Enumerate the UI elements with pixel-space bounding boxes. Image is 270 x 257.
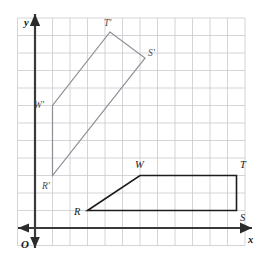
x-axis-arrow-left-icon [18,224,29,233]
vertex-labels-group: RWTSR'W'T'S' [34,18,247,223]
vertex-label-w-prime: W' [34,100,45,110]
vertex-label-w: W [135,159,145,170]
image-shape-group [53,32,146,176]
grid-lines [18,18,246,246]
y-axis-arrow-down-icon [30,237,40,248]
quadrilateral-image-outline [53,32,146,176]
x-axis-label: x [247,234,253,245]
vertex-label-t-prime: T' [104,18,112,28]
vertex-label-r: R [73,206,81,217]
coordinate-grid-diagram: RWTSR'W'T'S' x y O [0,0,270,257]
vertex-label-r-prime: R' [41,181,51,191]
origin-label: O [21,238,29,250]
y-axis-arrow-up-icon [30,14,40,26]
vertex-label-s: S [240,212,246,223]
diagram-canvas: RWTSR'W'T'S' x y O [0,0,270,257]
vertex-label-t: T [240,159,247,170]
vertex-label-s-prime: S' [148,48,156,58]
x-axis-arrow-right-icon [240,223,252,234]
y-axis-label: y [22,17,29,28]
